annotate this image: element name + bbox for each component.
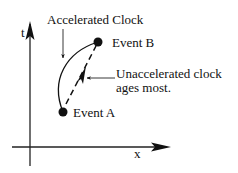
event-b-dot (94, 38, 103, 47)
unaccelerated-label-line2: ages most. (116, 80, 171, 95)
t-axis-label: t (21, 25, 25, 40)
x-axis-label: x (134, 146, 141, 161)
event-a-label: Event A (73, 105, 116, 120)
t-axis (26, 21, 35, 166)
x-axis (12, 143, 171, 152)
accelerated-clock-label: Accelerated Clock (47, 12, 144, 27)
accelerated-worldline (58, 42, 98, 112)
event-b-label: Event B (112, 35, 155, 50)
unaccelerated-label-line1: Unaccelerated clock (116, 66, 222, 81)
event-a-dot (59, 108, 68, 117)
spacetime-diagram: t x Event B Event A Accelerated Clock Un… (0, 0, 238, 173)
